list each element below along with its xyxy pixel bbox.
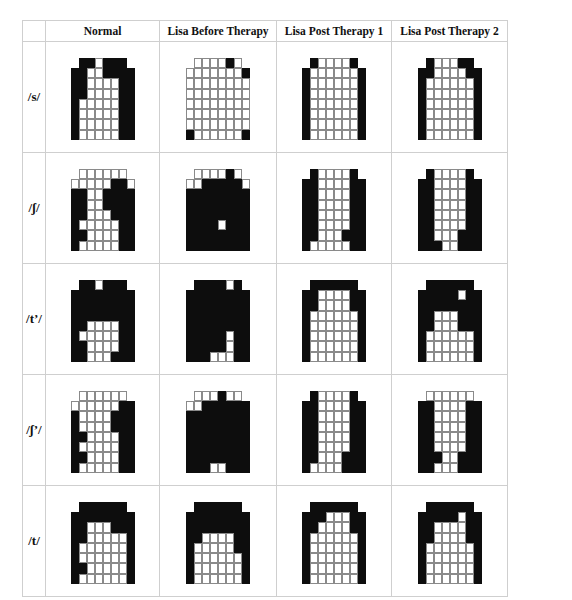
contact-electrode [218, 512, 226, 522]
contact-electrode [127, 189, 135, 199]
epg-cell-before-therapy [160, 486, 277, 597]
electrode [466, 341, 474, 351]
electrode [450, 210, 458, 220]
contact-electrode [119, 58, 127, 68]
contact-electrode [210, 321, 218, 331]
contact-electrode [194, 210, 202, 220]
electrode [226, 574, 234, 584]
contact-electrode [226, 210, 234, 220]
contact-electrode [474, 321, 482, 331]
electrode [234, 99, 242, 109]
contact-electrode [87, 280, 95, 290]
electrode [334, 391, 342, 401]
electrode [210, 574, 218, 584]
electrode [442, 401, 450, 411]
contact-electrode [426, 210, 434, 220]
epg-cell-normal [46, 153, 160, 264]
contact-electrode [79, 533, 87, 543]
electrode [103, 78, 111, 88]
contact-electrode [111, 300, 119, 310]
electrode [426, 543, 434, 553]
empty-slot [186, 502, 194, 512]
contact-electrode [418, 241, 426, 251]
contact-electrode [218, 502, 226, 512]
contact-electrode [310, 422, 318, 432]
contact-electrode [218, 241, 226, 251]
epg-comparison-table: Normal Lisa Before Therapy Lisa Post The… [22, 20, 508, 597]
contact-electrode [210, 220, 218, 230]
empty-slot [302, 280, 310, 290]
electrode [450, 311, 458, 321]
electrode [466, 563, 474, 573]
contact-electrode [350, 411, 358, 421]
contact-electrode [474, 512, 482, 522]
electrode [326, 422, 334, 432]
electrode [202, 78, 210, 88]
electrode [442, 574, 450, 584]
contact-electrode [350, 512, 358, 522]
electrode [119, 553, 127, 563]
contact-electrode [242, 311, 250, 321]
empty-slot [186, 391, 194, 401]
contact-electrode [474, 452, 482, 462]
electrode [434, 543, 442, 553]
electrode [111, 89, 119, 99]
contact-electrode [302, 230, 310, 240]
contact-electrode [71, 89, 79, 99]
contact-electrode [310, 230, 318, 240]
contact-electrode [358, 220, 366, 230]
contact-electrode [418, 432, 426, 442]
contact-electrode [466, 401, 474, 411]
electrode [226, 341, 234, 351]
electrode [79, 411, 87, 421]
contact-electrode [310, 179, 318, 189]
electrode [434, 574, 442, 584]
electrode [334, 58, 342, 68]
electrode [103, 130, 111, 140]
contact-electrode [234, 189, 242, 199]
electrode [103, 463, 111, 473]
contact-electrode [226, 442, 234, 452]
electrode [434, 220, 442, 230]
contact-electrode [186, 463, 194, 473]
electrode [318, 401, 326, 411]
electrode [326, 311, 334, 321]
electrode [434, 200, 442, 210]
electrode [95, 553, 103, 563]
column-header-normal: Normal [46, 21, 160, 42]
contact-electrode [234, 522, 242, 532]
contact-electrode [426, 241, 434, 251]
electrode [458, 522, 466, 532]
electrode [79, 169, 87, 179]
contact-electrode [242, 189, 250, 199]
contact-electrode [218, 300, 226, 310]
electrode [318, 89, 326, 99]
electrode [434, 522, 442, 532]
electrode [334, 331, 342, 341]
electrode [210, 463, 218, 473]
contact-electrode [202, 502, 210, 512]
electrode [95, 68, 103, 78]
electrode [334, 99, 342, 109]
electrode [318, 169, 326, 179]
contact-electrode [119, 411, 127, 421]
electrode [95, 442, 103, 452]
electrode [310, 311, 318, 321]
electrode [442, 210, 450, 220]
contact-electrode [466, 280, 474, 290]
contact-electrode [127, 352, 135, 362]
contact-electrode [79, 189, 87, 199]
electrode [334, 321, 342, 331]
electrode [194, 68, 202, 78]
contact-electrode [111, 189, 119, 199]
electrode [318, 331, 326, 341]
electrode [202, 130, 210, 140]
electrode [326, 109, 334, 119]
empty-slot [418, 280, 426, 290]
electrode [226, 68, 234, 78]
electrode [334, 411, 342, 421]
electrode [450, 331, 458, 341]
electrode [342, 533, 350, 543]
contact-electrode [242, 512, 250, 522]
contact-electrode [466, 300, 474, 310]
